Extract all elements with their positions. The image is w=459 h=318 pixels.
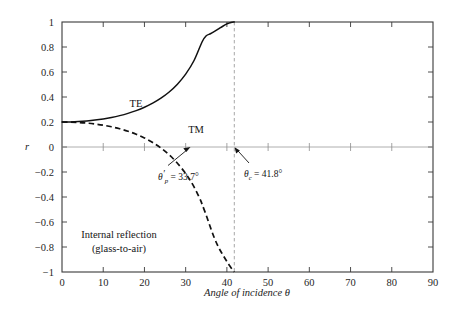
y-tick-label: 0.4 xyxy=(41,92,55,103)
curve-label-tm: TM xyxy=(188,124,204,135)
x-axis-ticks-bottom xyxy=(103,267,392,272)
x-tick-label: 80 xyxy=(387,277,398,288)
y-tick-label: −0.4 xyxy=(35,192,55,203)
x-tick-label: 90 xyxy=(428,277,439,288)
x-axis-ticks-top xyxy=(103,22,392,27)
y-tick-label: 0.8 xyxy=(41,42,54,53)
brewster-value: = 33.7° xyxy=(168,172,199,182)
y-tick-label: −1 xyxy=(43,267,54,278)
y-tick-label: 0 xyxy=(49,142,54,153)
critical-angle-arrow xyxy=(235,147,249,163)
caption-line-2: (glass-to-air) xyxy=(92,243,147,255)
x-axis-title: Angle of incidence θ xyxy=(203,287,290,298)
x-tick-label: 0 xyxy=(59,277,64,288)
curve-label-te: TE xyxy=(130,98,143,109)
y-tick-label: −0.6 xyxy=(35,217,54,228)
critical-value: = 41.8° xyxy=(252,169,283,179)
x-tick-label: 20 xyxy=(139,277,150,288)
y-tick-label: 0.2 xyxy=(41,117,54,128)
plot-area: 0102030405060708090 −1−0.8−0.6−0.4−0.200… xyxy=(0,0,459,318)
y-axis-tick-labels: −1−0.8−0.6−0.4−0.200.20.40.60.81 xyxy=(35,17,55,278)
curve-tm xyxy=(62,122,234,272)
y-axis-title: r xyxy=(25,141,30,152)
y-tick-label: 0.6 xyxy=(41,67,54,78)
caption-line-1: Internal reflection xyxy=(81,229,157,240)
y-tick-label: −0.2 xyxy=(35,167,54,178)
brewster-angle-label: θ′p = 33.7° xyxy=(158,169,199,185)
y-tick-label: −0.8 xyxy=(35,242,54,253)
x-tick-label: 10 xyxy=(98,277,109,288)
x-tick-label: 60 xyxy=(304,277,315,288)
curve-te xyxy=(62,22,234,122)
x-tick-label: 30 xyxy=(180,277,191,288)
x-tick-label: 70 xyxy=(345,277,356,288)
critical-angle-label: θc = 41.8° xyxy=(244,169,282,181)
fresnel-reflection-figure: 0102030405060708090 −1−0.8−0.6−0.4−0.200… xyxy=(0,0,459,318)
y-tick-label: 1 xyxy=(49,17,54,28)
